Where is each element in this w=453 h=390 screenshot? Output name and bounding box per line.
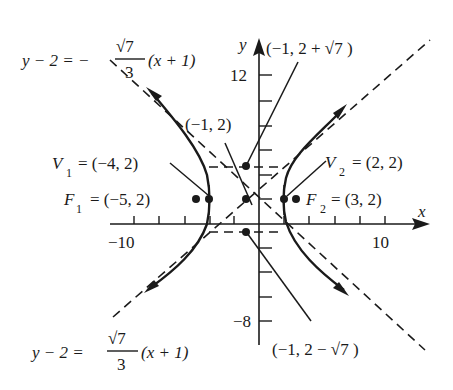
y-tick-label-min: −8 bbox=[233, 312, 251, 331]
asym-neg-rhs: (x + 1) bbox=[148, 51, 196, 70]
asymptotes bbox=[110, 40, 430, 350]
points bbox=[192, 162, 300, 236]
asym-pos-rhs: (x + 1) bbox=[141, 343, 189, 362]
asym-pos-lhs: y − 2 = bbox=[30, 343, 84, 362]
focus-f2-point bbox=[292, 195, 300, 203]
asymptote-positive-equation: y − 2 = √7 3 (x + 1) bbox=[30, 329, 189, 374]
hyperbola-figure: x y −10 10 12 −8 y − 2 = − √ bbox=[0, 0, 453, 390]
axes: x y −10 10 12 −8 bbox=[108, 35, 430, 345]
svg-text:V: V bbox=[52, 154, 65, 173]
conjugate-bottom-point bbox=[242, 228, 250, 236]
x-tick-label-max: 10 bbox=[372, 233, 389, 252]
labels: y − 2 = − √7 3 (x + 1) y − 2 = √7 3 (x +… bbox=[20, 37, 403, 374]
y-axis-label: y bbox=[237, 35, 247, 54]
center-label: (−1, 2) bbox=[185, 115, 231, 134]
y-ticks bbox=[259, 75, 272, 321]
y-tick-label-max: 12 bbox=[230, 66, 247, 85]
svg-text:= (3, 2): = (3, 2) bbox=[331, 190, 382, 209]
leader-v1 bbox=[170, 163, 208, 195]
vertex-v1-point bbox=[205, 195, 213, 203]
center-point bbox=[242, 195, 250, 203]
asymptote-negative-equation: y − 2 = − √7 3 (x + 1) bbox=[20, 37, 196, 82]
asym-neg-lhs: y − 2 = − bbox=[20, 51, 89, 70]
svg-text:F: F bbox=[305, 190, 317, 209]
vertex-v2-label: V 2 = (2, 2) bbox=[325, 153, 403, 179]
leader-lines bbox=[170, 62, 326, 321]
svg-text:2: 2 bbox=[320, 202, 326, 216]
asymptote-positive-slope bbox=[113, 40, 430, 317]
focus-f1-label: F 1 = (−5, 2) bbox=[63, 190, 150, 216]
arrow-icon-upper-left bbox=[146, 87, 162, 101]
vertex-v2-point bbox=[280, 195, 288, 203]
svg-text:1: 1 bbox=[76, 202, 82, 216]
svg-text:2: 2 bbox=[339, 165, 345, 179]
svg-text:1: 1 bbox=[66, 166, 72, 180]
conjugate-bottom-label: (−1, 2 − √7 ) bbox=[272, 340, 359, 359]
x-axis-label: x bbox=[417, 202, 426, 221]
conjugate-top-label: (−1, 2 + √7 ) bbox=[266, 39, 353, 58]
conjugate-top-point bbox=[242, 162, 250, 170]
asym-pos-num: √7 bbox=[108, 329, 126, 348]
focus-f1-point bbox=[192, 195, 200, 203]
vertex-v1-label: V 1 = (−4, 2) bbox=[52, 154, 138, 180]
asym-pos-den: 3 bbox=[117, 355, 126, 374]
asym-neg-num: √7 bbox=[116, 37, 134, 56]
asym-neg-den: 3 bbox=[125, 63, 134, 82]
x-tick-label-min: −10 bbox=[108, 233, 135, 252]
svg-text:V: V bbox=[325, 153, 338, 172]
svg-text:= (−5, 2): = (−5, 2) bbox=[90, 190, 150, 209]
focus-f2-label: F 2 = (3, 2) bbox=[305, 190, 382, 216]
leader-conj-bottom bbox=[247, 233, 311, 321]
svg-text:= (2, 2): = (2, 2) bbox=[352, 153, 403, 172]
svg-text:= (−4, 2): = (−4, 2) bbox=[78, 154, 138, 173]
svg-text:F: F bbox=[63, 190, 75, 209]
